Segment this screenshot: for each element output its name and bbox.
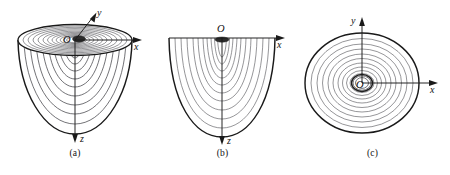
panel-c: x y O (c) xyxy=(295,0,450,175)
z-axis-label: z xyxy=(226,135,231,146)
origin-label: O xyxy=(217,23,225,34)
panel-a: z x y O (a) xyxy=(0,0,150,175)
panel-b: x z O (b) xyxy=(150,0,295,175)
panel-b-caption: (b) xyxy=(150,148,295,158)
panel-a-caption: (a) xyxy=(0,148,150,158)
y-axis-label: y xyxy=(350,15,356,26)
paraboloid-figure: z x y O (a) xyxy=(0,0,450,175)
x-axis-label: x xyxy=(133,41,139,52)
origin-label: O xyxy=(356,79,364,90)
apex-cap xyxy=(73,36,86,42)
z-axis-arrowhead xyxy=(72,134,78,143)
z-axis-arrowhead xyxy=(219,136,225,145)
origin-label: O xyxy=(63,34,71,45)
x-axis-label: x xyxy=(429,84,435,95)
z-axis-label: z xyxy=(79,133,84,144)
panel-c-caption: (c) xyxy=(295,148,450,158)
y-axis-label: y xyxy=(96,7,102,18)
x-axis-label: x xyxy=(276,39,282,50)
y-axis-arrowhead xyxy=(90,13,97,23)
y-axis-arrowhead xyxy=(359,17,365,26)
